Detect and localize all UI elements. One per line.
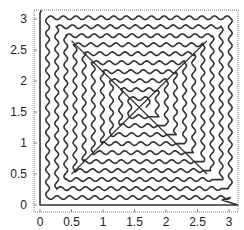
x-tick-label: 0.5	[63, 215, 80, 229]
y-axis-ticks: 00.511.522.53	[10, 12, 37, 212]
x-tick-label: 2	[163, 215, 170, 229]
y-tick-label: 1.5	[10, 105, 27, 119]
y-tick-label: 3	[20, 12, 27, 26]
y-tick-label: 1	[20, 136, 27, 150]
x-tick-label: 0	[37, 215, 44, 229]
x-tick-label: 2.5	[189, 215, 206, 229]
x-tick-label: 3	[226, 215, 233, 229]
x-tick-label: 1	[100, 215, 107, 229]
spiral-curve	[40, 10, 238, 205]
x-tick-label: 1.5	[126, 215, 143, 229]
y-tick-label: 0	[20, 198, 27, 212]
y-tick-label: 0.5	[10, 167, 27, 181]
y-tick-label: 2	[20, 74, 27, 88]
y-tick-label: 2.5	[10, 43, 27, 57]
chart: 00.511.522.53 00.511.522.53	[0, 0, 244, 230]
